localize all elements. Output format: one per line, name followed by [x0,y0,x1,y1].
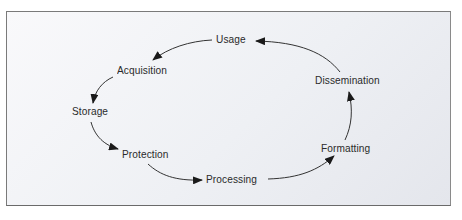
node-formatting: Formatting [321,142,370,154]
node-acquisition: Acquisition [117,64,167,76]
node-usage: Usage [216,33,246,45]
arrow-acquisition-to-storage [93,77,113,103]
node-dissemination: Dissemination [315,74,380,86]
arrow-usage-to-acquisition [153,40,212,60]
arrow-dissemination-to-usage [256,41,340,72]
arrow-formatting-to-dissemination [345,92,351,140]
arrow-processing-to-formatting [268,156,334,179]
node-processing: Processing [206,173,257,185]
node-protection: Protection [122,148,168,160]
node-storage: Storage [72,105,108,117]
arrow-storage-to-protection [91,122,118,149]
arrow-protection-to-processing [148,164,202,180]
